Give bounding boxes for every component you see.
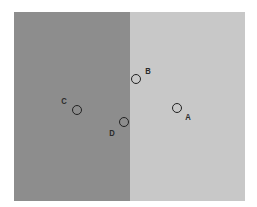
point-a-marker[interactable] [172,103,182,113]
light-region [130,12,245,201]
figure-panel [14,12,245,201]
point-a-label: A [185,113,192,122]
point-b-marker[interactable] [131,74,141,84]
point-d-label: D [109,129,116,138]
point-d-marker[interactable] [119,117,129,127]
point-c-marker[interactable] [72,105,82,115]
point-b-label: B [145,67,152,76]
point-c-label: C [61,97,68,106]
